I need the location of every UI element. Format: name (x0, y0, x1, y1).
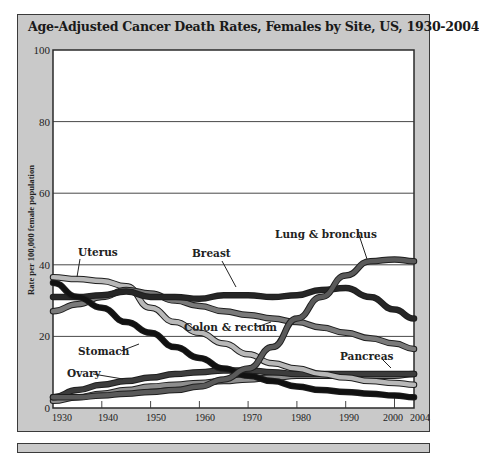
y-tick-label: 20 (39, 330, 51, 342)
x-tick-label: 2004 (410, 412, 430, 423)
x-tick-label: 1930 (52, 412, 72, 423)
label-lung: Lung & bronchus (275, 228, 377, 240)
y-tick-label: 80 (39, 116, 51, 128)
y-tick-label: 60 (39, 187, 51, 199)
x-tick-label: 1960 (195, 412, 215, 423)
x-tick-label: 1940 (98, 412, 118, 423)
y-tick-labels: 0 20 40 60 80 100 (34, 44, 51, 414)
label-colon: Colon & rectum (184, 321, 277, 333)
y-tick-label: 40 (39, 259, 51, 271)
label-pancreas: Pancreas (340, 350, 393, 362)
next-figure-frame (17, 443, 430, 453)
y-tick-label: 0 (45, 402, 51, 414)
x-tick-label: 1990 (339, 412, 359, 423)
label-breast: Breast (192, 247, 231, 259)
y-tick-label: 100 (34, 44, 51, 56)
x-tick-label: 1980 (291, 412, 311, 423)
x-tick-labels: 1930 1940 1950 1960 1970 1980 1990 2000 … (52, 412, 430, 423)
x-tick-label: 1970 (242, 412, 262, 423)
x-tick-label: 1950 (146, 412, 166, 423)
label-ovary: Ovary (67, 367, 102, 379)
label-uterus: Uterus (78, 246, 118, 258)
x-tick-label: 2000 (383, 412, 403, 423)
